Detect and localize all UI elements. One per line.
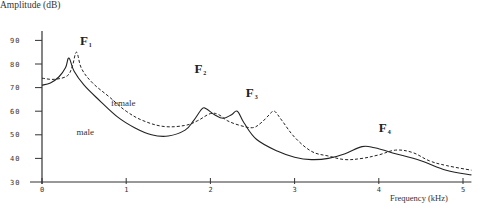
series-male-line <box>42 58 471 175</box>
x-tick-label: 2 <box>208 186 212 194</box>
series-label-male: male <box>77 127 95 137</box>
y-tick-label: 50 <box>10 131 20 139</box>
y-tick-label: 90 <box>10 37 20 45</box>
formant-label-f4: F4 <box>379 120 391 135</box>
x-tick-label: 0 <box>40 186 44 194</box>
series-label-female: female <box>111 98 135 108</box>
formant-spectrum-chart: 30405060708090012345 F1F2F3F4femalemale <box>0 0 483 209</box>
x-tick-label: 3 <box>293 186 297 194</box>
y-tick-label: 30 <box>10 179 20 187</box>
axes: 30405060708090012345 <box>10 31 471 194</box>
y-tick-label: 60 <box>10 108 20 116</box>
x-tick-label: 4 <box>377 186 381 194</box>
series-lines <box>42 52 471 175</box>
formant-label-f2: F2 <box>194 61 206 76</box>
formant-label-f3: F3 <box>246 85 258 100</box>
series-female-line <box>42 52 471 170</box>
x-tick-label: 1 <box>124 186 128 194</box>
y-tick-label: 80 <box>10 61 20 69</box>
x-tick-label: 5 <box>461 186 465 194</box>
y-tick-label: 70 <box>10 84 20 92</box>
y-tick-label: 40 <box>10 155 20 163</box>
formant-label-f1: F1 <box>80 33 92 48</box>
